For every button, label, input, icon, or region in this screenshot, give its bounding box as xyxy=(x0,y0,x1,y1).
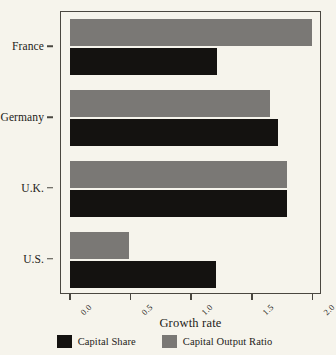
x-axis-tick xyxy=(251,294,253,300)
bar-germany-capital-share xyxy=(70,119,278,146)
y-axis-tick xyxy=(47,46,53,48)
y-axis-label-uk: U.K. xyxy=(21,182,44,194)
legend-swatch xyxy=(57,335,72,348)
bar-us-capital-share xyxy=(70,261,216,288)
bar-france-capital-share xyxy=(70,48,217,75)
x-axis-tick-label: 0.0 xyxy=(78,302,93,317)
x-axis-tick xyxy=(312,294,314,300)
x-axis-tick-label: 1.5 xyxy=(260,302,275,317)
bar-germany-capital-output-ratio xyxy=(70,90,270,117)
chart-legend: Capital ShareCapital Output Ratio xyxy=(0,335,329,348)
legend-label: Capital Output Ratio xyxy=(183,336,273,347)
y-axis-tick xyxy=(47,187,53,189)
x-axis-tick xyxy=(130,294,132,300)
bar-uk-capital-share xyxy=(70,190,287,217)
y-axis-tick xyxy=(47,258,53,260)
y-axis-label-us: U.S. xyxy=(23,253,44,265)
x-axis-title: Growth rate xyxy=(60,316,321,331)
legend-item-capital-output-ratio: Capital Output Ratio xyxy=(162,335,273,348)
bar-us-capital-output-ratio xyxy=(70,232,129,259)
x-axis-tick-label: 0.5 xyxy=(139,302,154,317)
x-axis-tick xyxy=(190,294,192,300)
legend-swatch xyxy=(162,335,177,348)
y-axis-label-france: France xyxy=(12,40,44,52)
bar-uk-capital-output-ratio xyxy=(70,161,287,188)
x-axis-tick xyxy=(69,294,71,300)
legend-label: Capital Share xyxy=(78,336,136,347)
y-axis-tick xyxy=(47,116,53,118)
plot-area xyxy=(60,11,321,294)
legend-item-capital-share: Capital Share xyxy=(57,335,136,348)
x-axis-tick-label: 2.0 xyxy=(321,302,336,317)
bars-layer xyxy=(61,12,320,293)
y-axis: FranceGermanyU.K.U.S. xyxy=(0,11,53,294)
bar-france-capital-output-ratio xyxy=(70,19,312,46)
x-axis-ticks xyxy=(60,294,321,302)
x-axis-tick-label: 1.0 xyxy=(200,302,215,317)
y-axis-label-germany: Germany xyxy=(1,111,45,123)
